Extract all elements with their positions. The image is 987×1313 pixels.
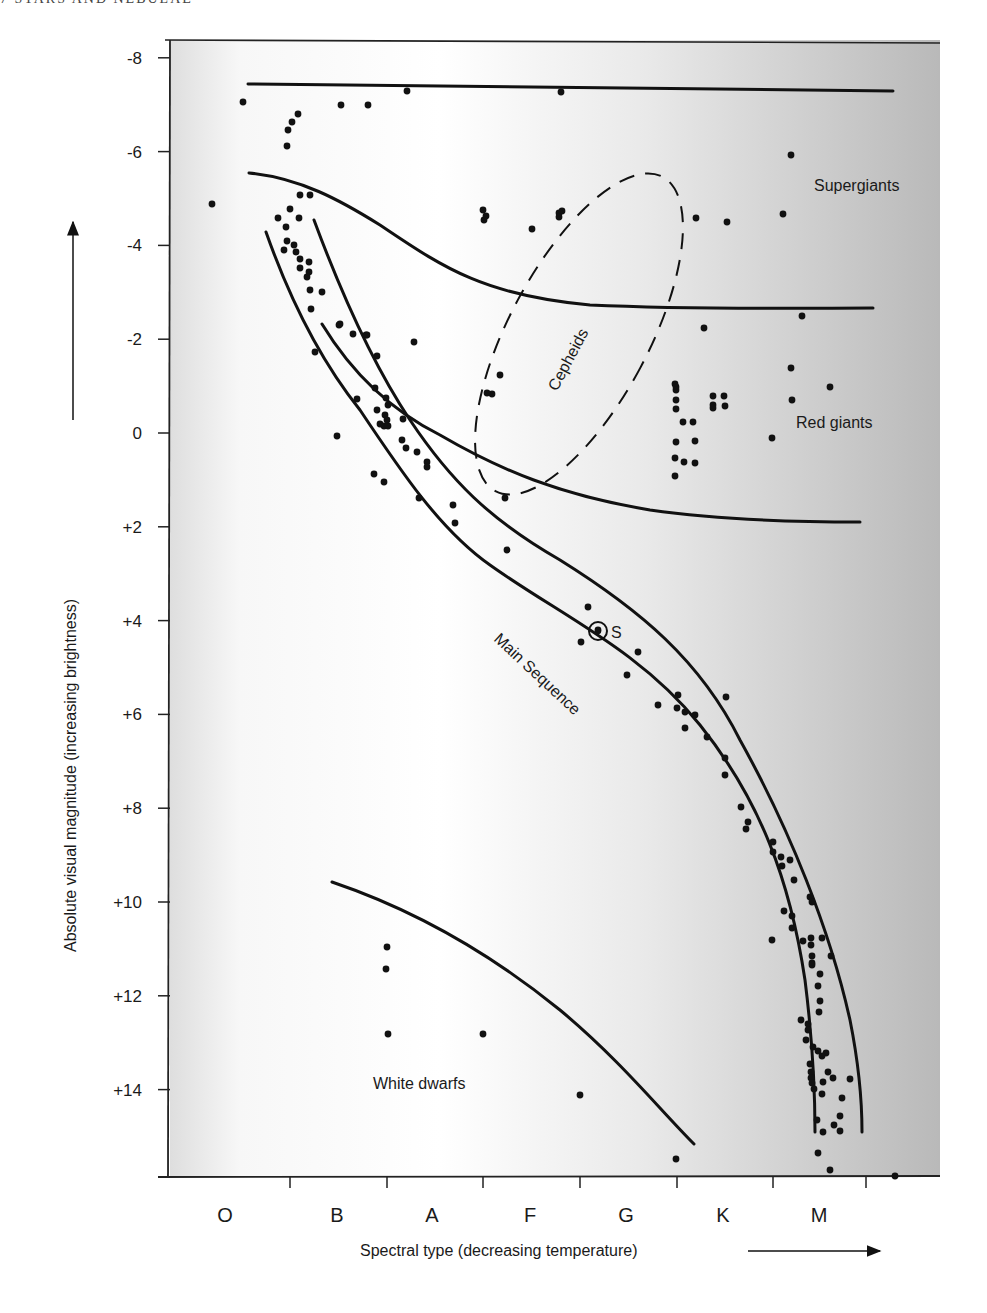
star-point bbox=[692, 438, 699, 445]
spectral-type-labels: OBAFGKM bbox=[217, 1204, 827, 1226]
star-point bbox=[577, 1092, 584, 1099]
star-point bbox=[743, 826, 750, 833]
star-point bbox=[293, 249, 300, 256]
star-point bbox=[374, 407, 381, 414]
star-point bbox=[788, 152, 795, 159]
spectral-type-g: G bbox=[618, 1204, 634, 1226]
y-axis-title: Absolute visual magnitude (increasing br… bbox=[62, 599, 79, 952]
label-supergiants: Supergiants bbox=[814, 177, 899, 194]
star-point bbox=[789, 925, 796, 932]
star-point bbox=[672, 473, 679, 480]
star-point bbox=[502, 495, 509, 502]
y-tick-label: 0 bbox=[133, 424, 142, 443]
star-point bbox=[770, 849, 777, 856]
star-point bbox=[304, 274, 311, 281]
star-point bbox=[307, 287, 314, 294]
star-point bbox=[297, 192, 304, 199]
star-point bbox=[820, 1079, 827, 1086]
star-point bbox=[723, 694, 730, 701]
star-point bbox=[673, 397, 680, 404]
star-point bbox=[722, 772, 729, 779]
star-point bbox=[807, 1061, 814, 1068]
spectral-type-a: A bbox=[425, 1204, 439, 1226]
star-point bbox=[338, 102, 345, 109]
star-point bbox=[337, 321, 344, 328]
star-point bbox=[847, 1076, 854, 1083]
star-point bbox=[827, 1167, 834, 1174]
star-point bbox=[791, 877, 798, 884]
star-point bbox=[209, 201, 216, 208]
star-point bbox=[635, 649, 642, 656]
star-point bbox=[400, 416, 407, 423]
y-tick-label: +10 bbox=[113, 893, 142, 912]
y-axis bbox=[168, 40, 170, 1177]
y-tick-label: +2 bbox=[123, 518, 142, 537]
y-tick-label: -8 bbox=[127, 49, 142, 68]
x-axis bbox=[158, 1176, 940, 1177]
star-point bbox=[578, 639, 585, 646]
star-point bbox=[384, 417, 391, 424]
star-point bbox=[673, 387, 680, 394]
star-point bbox=[350, 331, 357, 338]
star-point bbox=[674, 705, 681, 712]
star-point bbox=[825, 1069, 832, 1076]
star-point bbox=[722, 403, 729, 410]
star-point bbox=[675, 692, 682, 699]
x-axis-ticks bbox=[290, 1177, 866, 1188]
star-point bbox=[722, 755, 729, 762]
star-point bbox=[484, 390, 491, 397]
star-point bbox=[287, 206, 294, 213]
star-point bbox=[789, 913, 796, 920]
star-point bbox=[745, 819, 752, 826]
star-point bbox=[808, 942, 815, 949]
star-point bbox=[892, 1173, 899, 1180]
star-point bbox=[770, 839, 777, 846]
star-point bbox=[384, 944, 391, 951]
star-point bbox=[672, 455, 679, 462]
star-point bbox=[483, 213, 490, 220]
star-point bbox=[399, 437, 406, 444]
star-point bbox=[297, 256, 304, 263]
star-point bbox=[289, 119, 296, 126]
star-point bbox=[805, 1021, 812, 1028]
star-point bbox=[556, 214, 563, 221]
y-tick-label: +6 bbox=[123, 705, 142, 724]
star-point bbox=[808, 1069, 815, 1076]
y-tick-label: -2 bbox=[127, 330, 142, 349]
star-point bbox=[371, 471, 378, 478]
star-point bbox=[781, 908, 788, 915]
star-point bbox=[819, 1053, 826, 1060]
star-point bbox=[404, 88, 411, 95]
star-point bbox=[585, 604, 592, 611]
star-point bbox=[690, 419, 697, 426]
star-point bbox=[692, 712, 699, 719]
y-tick-label: -4 bbox=[127, 236, 142, 255]
star-point bbox=[809, 1080, 816, 1087]
star-point bbox=[480, 1031, 487, 1038]
star-point bbox=[673, 1156, 680, 1163]
star-point bbox=[383, 395, 390, 402]
star-point bbox=[830, 1075, 837, 1082]
star-point bbox=[291, 242, 298, 249]
sun-label: S bbox=[611, 624, 622, 641]
star-point bbox=[798, 1017, 805, 1024]
y-tick-label: -6 bbox=[127, 143, 142, 162]
hr-diagram: -8-6-4-20+2+4+6+8+10+12+14 S Supergiants… bbox=[0, 0, 987, 1313]
star-point bbox=[692, 460, 699, 467]
star-point bbox=[769, 435, 776, 442]
spectral-type-m: M bbox=[811, 1204, 828, 1226]
star-point bbox=[372, 385, 379, 392]
star-point bbox=[385, 1031, 392, 1038]
spectral-type-f: F bbox=[524, 1204, 536, 1226]
star-point bbox=[701, 325, 708, 332]
star-point bbox=[655, 702, 662, 709]
star-point bbox=[285, 127, 292, 134]
star-point bbox=[673, 439, 680, 446]
star-point bbox=[364, 332, 371, 339]
star-point bbox=[296, 215, 303, 222]
star-point bbox=[839, 1095, 846, 1102]
star-point bbox=[497, 372, 504, 379]
star-point bbox=[416, 495, 423, 502]
star-point bbox=[504, 547, 511, 554]
star-point bbox=[559, 208, 566, 215]
